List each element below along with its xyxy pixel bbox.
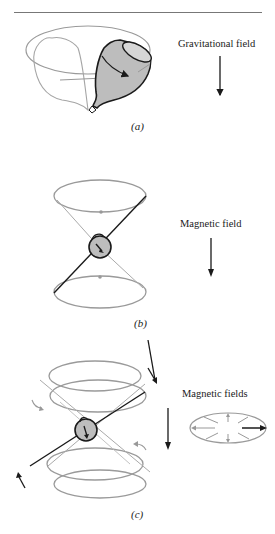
panel-c: Magnetic fields (c) bbox=[0, 340, 275, 534]
field-label-b: Magnetic field bbox=[180, 218, 242, 229]
field-label-c: Magnetic fields bbox=[182, 388, 248, 399]
rotating-field-ellipse bbox=[190, 413, 267, 443]
magnetic-dipole-cone-diagram bbox=[0, 160, 275, 340]
rotating-field-precession-diagram bbox=[0, 340, 275, 534]
panel-a: Gravitational field (a) bbox=[0, 0, 275, 160]
caption-c: (c) bbox=[131, 508, 143, 520]
caption-a: (a) bbox=[131, 120, 144, 132]
field-label-a: Gravitational field bbox=[178, 38, 255, 49]
caption-b: (b) bbox=[134, 317, 147, 329]
panel-b: Magnetic field (b) bbox=[0, 160, 275, 340]
upper-cone-ellipse bbox=[54, 180, 146, 212]
spinning-particle-c bbox=[75, 419, 97, 441]
lower-cone-ellipse bbox=[54, 276, 146, 308]
spinning-top-diagram bbox=[0, 0, 275, 160]
